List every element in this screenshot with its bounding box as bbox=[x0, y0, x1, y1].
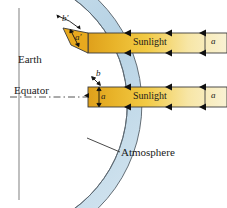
atmosphere-label: Atmosphere bbox=[121, 147, 175, 158]
diagram-canvas bbox=[0, 0, 227, 208]
a-label: a bbox=[101, 92, 106, 101]
sunlight-label-upper: Sunlight bbox=[133, 37, 167, 47]
sunlight-atmosphere-diagram: Earth Equator Atmosphere Sunlight Sunlig… bbox=[0, 0, 227, 208]
a-label-lower-right: a bbox=[211, 91, 216, 100]
b-prime-label: b′ bbox=[62, 14, 68, 23]
a-prime-label: a′ bbox=[75, 33, 81, 42]
sunlight-label-lower: Sunlight bbox=[133, 91, 167, 101]
earth-label: Earth bbox=[18, 54, 42, 65]
a-label-upper-right: a bbox=[211, 37, 216, 46]
b-label: b bbox=[96, 69, 101, 78]
equator-label: Equator bbox=[14, 85, 49, 96]
